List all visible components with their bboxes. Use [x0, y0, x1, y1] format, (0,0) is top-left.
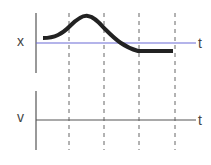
v-axis-label: v [17, 110, 24, 124]
top-t-axis-label: t [198, 36, 202, 50]
x-axis-label: x [17, 34, 24, 48]
bottom-t-axis-label: t [198, 113, 202, 127]
dashed-guides [69, 13, 175, 150]
motion-graphs [0, 0, 211, 165]
position-curve [43, 16, 173, 51]
